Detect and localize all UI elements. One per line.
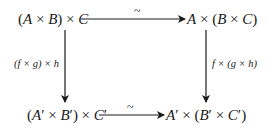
node-top-right: A × (B × C) — [187, 12, 257, 27]
bottom-arrow-label: ~ — [127, 101, 134, 113]
right-arrow-label: f × (g × h) — [212, 59, 257, 70]
node-bottom-left: (A′ × B′) × C′ — [27, 108, 107, 123]
node-top-left: (A × B) × C — [18, 12, 88, 27]
left-arrow-label: (f × g) × h — [14, 59, 59, 70]
node-bottom-right: A′ × (B′ × C′) — [166, 108, 246, 123]
top-arrow-label: ~ — [134, 5, 141, 17]
